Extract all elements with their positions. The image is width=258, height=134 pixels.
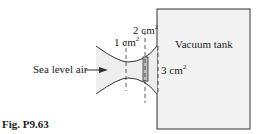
exit-area-label: 3 cm2 [161, 65, 186, 76]
normal-shock [143, 57, 148, 81]
figure-caption: Fig. P9.63 [2, 118, 49, 130]
inlet-label: Sea level air [33, 64, 87, 75]
shock-area-label: 2 cm2 [133, 25, 158, 36]
throat-area-label: 1 cm2 [114, 37, 139, 48]
tank-label: Vacuum tank [175, 39, 233, 50]
